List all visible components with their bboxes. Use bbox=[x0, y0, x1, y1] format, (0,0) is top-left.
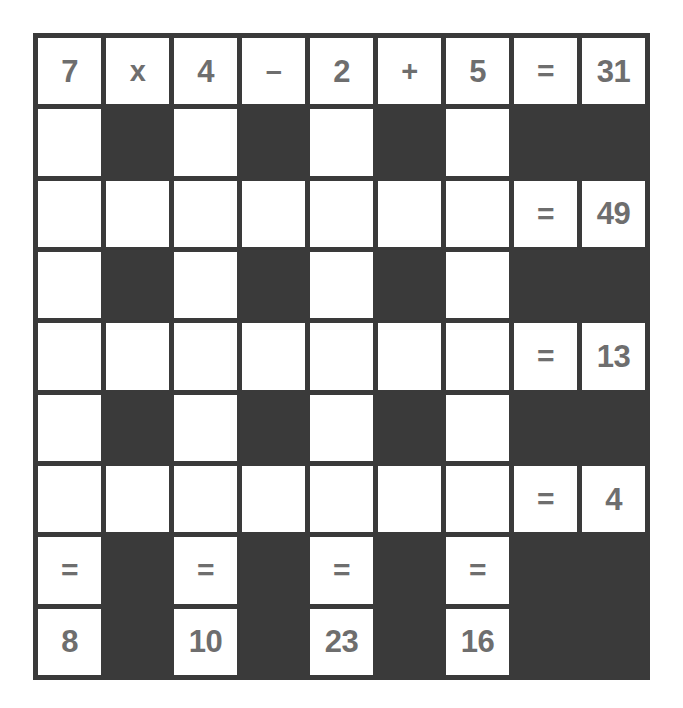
blocked-cell-r4-c6 bbox=[378, 252, 441, 318]
number-cell-r9-c3: 10 bbox=[174, 609, 237, 675]
blocked-cell-r6-c9 bbox=[582, 395, 645, 461]
blocked-cell-r4-c2 bbox=[106, 252, 169, 318]
blocked-cell-r4-c8 bbox=[514, 252, 577, 318]
blocked-cell-r2-c4 bbox=[242, 109, 305, 175]
number-cell-r1-c5: 2 bbox=[310, 38, 373, 104]
empty-input-cell-r3-c2[interactable] bbox=[106, 181, 169, 247]
blocked-cell-r8-c4 bbox=[242, 537, 305, 603]
equals-cell-r3-c8: = bbox=[514, 181, 577, 247]
number-cell-r9-c5: 23 bbox=[310, 609, 373, 675]
empty-input-cell-r7-c3[interactable] bbox=[174, 466, 237, 532]
blocked-cell-r9-c9 bbox=[582, 609, 645, 675]
empty-input-cell-r4-c7[interactable] bbox=[446, 252, 509, 318]
number-cell-r3-c9: 49 bbox=[582, 181, 645, 247]
equals-cell-r7-c8: = bbox=[514, 466, 577, 532]
number-cell-r5-c9: 13 bbox=[582, 323, 645, 389]
blocked-cell-r9-c6 bbox=[378, 609, 441, 675]
empty-input-cell-r3-c1[interactable] bbox=[38, 181, 101, 247]
empty-input-cell-r2-c7[interactable] bbox=[446, 109, 509, 175]
operator-cell-r1-c4: – bbox=[242, 38, 305, 104]
number-cell-r7-c9: 4 bbox=[582, 466, 645, 532]
equals-cell-r5-c8: = bbox=[514, 323, 577, 389]
equals-cell-r1-c8: = bbox=[514, 38, 577, 104]
blocked-cell-r8-c6 bbox=[378, 537, 441, 603]
number-cell-r1-c7: 5 bbox=[446, 38, 509, 104]
empty-input-cell-r2-c1[interactable] bbox=[38, 109, 101, 175]
empty-input-cell-r4-c5[interactable] bbox=[310, 252, 373, 318]
number-cell-r1-c9: 31 bbox=[582, 38, 645, 104]
empty-input-cell-r2-c3[interactable] bbox=[174, 109, 237, 175]
blocked-cell-r4-c4 bbox=[242, 252, 305, 318]
empty-input-cell-r4-c3[interactable] bbox=[174, 252, 237, 318]
blocked-cell-r6-c8 bbox=[514, 395, 577, 461]
empty-input-cell-r5-c3[interactable] bbox=[174, 323, 237, 389]
empty-input-cell-r7-c7[interactable] bbox=[446, 466, 509, 532]
empty-input-cell-r2-c5[interactable] bbox=[310, 109, 373, 175]
empty-input-cell-r6-c3[interactable] bbox=[174, 395, 237, 461]
empty-input-cell-r7-c6[interactable] bbox=[378, 466, 441, 532]
blocked-cell-r4-c9 bbox=[582, 252, 645, 318]
empty-input-cell-r7-c4[interactable] bbox=[242, 466, 305, 532]
equals-cell-r8-c3: = bbox=[174, 537, 237, 603]
operator-cell-r1-c2: x bbox=[106, 38, 169, 104]
empty-input-cell-r3-c4[interactable] bbox=[242, 181, 305, 247]
blocked-cell-r2-c6 bbox=[378, 109, 441, 175]
blocked-cell-r8-c9 bbox=[582, 537, 645, 603]
empty-input-cell-r5-c4[interactable] bbox=[242, 323, 305, 389]
empty-input-cell-r5-c7[interactable] bbox=[446, 323, 509, 389]
blocked-cell-r6-c4 bbox=[242, 395, 305, 461]
blocked-cell-r8-c8 bbox=[514, 537, 577, 603]
empty-input-cell-r7-c2[interactable] bbox=[106, 466, 169, 532]
empty-input-cell-r7-c1[interactable] bbox=[38, 466, 101, 532]
blocked-cell-r9-c4 bbox=[242, 609, 305, 675]
empty-input-cell-r5-c6[interactable] bbox=[378, 323, 441, 389]
empty-input-cell-r6-c7[interactable] bbox=[446, 395, 509, 461]
empty-input-cell-r6-c1[interactable] bbox=[38, 395, 101, 461]
empty-input-cell-r3-c3[interactable] bbox=[174, 181, 237, 247]
empty-input-cell-r3-c6[interactable] bbox=[378, 181, 441, 247]
puzzle-grid: 7x4–2+5=31=49=13=4====8102316 bbox=[33, 33, 650, 680]
operator-cell-r1-c6: + bbox=[378, 38, 441, 104]
number-cell-r9-c7: 16 bbox=[446, 609, 509, 675]
empty-input-cell-r3-c5[interactable] bbox=[310, 181, 373, 247]
number-cell-r1-c3: 4 bbox=[174, 38, 237, 104]
equals-cell-r8-c5: = bbox=[310, 537, 373, 603]
empty-input-cell-r5-c2[interactable] bbox=[106, 323, 169, 389]
empty-input-cell-r5-c5[interactable] bbox=[310, 323, 373, 389]
blocked-cell-r6-c6 bbox=[378, 395, 441, 461]
blocked-cell-r9-c2 bbox=[106, 609, 169, 675]
empty-input-cell-r3-c7[interactable] bbox=[446, 181, 509, 247]
empty-input-cell-r6-c5[interactable] bbox=[310, 395, 373, 461]
number-cell-r1-c1: 7 bbox=[38, 38, 101, 104]
empty-input-cell-r7-c5[interactable] bbox=[310, 466, 373, 532]
blocked-cell-r2-c8 bbox=[514, 109, 577, 175]
number-cell-r9-c1: 8 bbox=[38, 609, 101, 675]
empty-input-cell-r4-c1[interactable] bbox=[38, 252, 101, 318]
equals-cell-r8-c7: = bbox=[446, 537, 509, 603]
blocked-cell-r2-c9 bbox=[582, 109, 645, 175]
blocked-cell-r6-c2 bbox=[106, 395, 169, 461]
blocked-cell-r8-c2 bbox=[106, 537, 169, 603]
empty-input-cell-r5-c1[interactable] bbox=[38, 323, 101, 389]
equals-cell-r8-c1: = bbox=[38, 537, 101, 603]
blocked-cell-r9-c8 bbox=[514, 609, 577, 675]
blocked-cell-r2-c2 bbox=[106, 109, 169, 175]
